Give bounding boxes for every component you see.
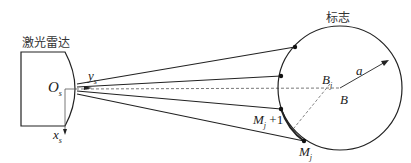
hit-point-mj1 [279, 107, 283, 111]
lidar-label: 激光雷达 [22, 37, 70, 49]
y-axis-label: ys [88, 69, 97, 86]
projection-dashed-line [294, 84, 330, 128]
radius-arrow-icon [381, 60, 389, 66]
x-axis-arrow-icon [63, 129, 67, 135]
x-axis-label: xs [53, 128, 62, 145]
laser-ray-2 [77, 76, 281, 87]
point-mj1-label: Mj +1 [253, 113, 283, 130]
center-dashed-line [76, 88, 340, 89]
projected-center-label: Bj [322, 73, 332, 90]
hit-point-mj [302, 139, 306, 143]
laser-ray-1 [77, 47, 295, 84]
hit-point-1 [293, 45, 297, 49]
hit-point-2 [279, 74, 283, 78]
origin-label: Os [48, 80, 62, 98]
radius-label: a [356, 64, 363, 77]
point-mj-label: Mj [299, 145, 312, 162]
radius-line [340, 61, 387, 88]
target-label: 标志 [326, 12, 350, 24]
center-label: B [340, 93, 348, 106]
